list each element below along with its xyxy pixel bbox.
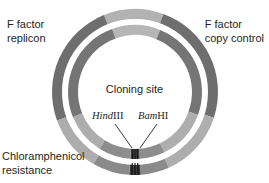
label-hindiii-roman: III <box>113 110 124 121</box>
label-cloning-site: Cloning site <box>0 83 269 97</box>
label-hindiii-site: HindIII <box>92 110 124 121</box>
label-chloramphenicol-resistance-line1: Chloramphenicol <box>2 150 85 164</box>
label-f-factor-replicon-line1: F factor <box>7 18 46 32</box>
label-f-factor-copy-control: F factor copy control <box>205 18 264 45</box>
leader-line-hindiii <box>115 124 132 148</box>
cloning-site-stripe-inner-1 <box>134 149 135 159</box>
plasmid-figure: F factor replicon F factor copy control … <box>0 0 269 183</box>
leader-lines-group <box>115 124 157 148</box>
label-f-factor-copy-control-line2: copy control <box>205 32 264 46</box>
label-chloramphenicol-resistance: Chloramphenicol resistance <box>2 150 85 177</box>
leader-line-bamhi <box>140 124 157 148</box>
cloning-site-stripe-outer-1 <box>134 163 135 175</box>
label-bamhi-italic: Bam <box>138 110 157 121</box>
label-f-factor-replicon-line2: replicon <box>7 32 46 46</box>
label-bamhi-site: BamHI <box>138 110 168 121</box>
label-f-factor-copy-control-line1: F factor <box>205 18 264 32</box>
label-f-factor-replicon: F factor replicon <box>7 18 46 45</box>
inner-segment-top-light-arc <box>112 25 160 39</box>
label-hindiii-italic: Hind <box>92 110 113 121</box>
label-bamhi-roman: HI <box>157 110 168 121</box>
label-chloramphenicol-resistance-line2: resistance <box>2 164 85 178</box>
